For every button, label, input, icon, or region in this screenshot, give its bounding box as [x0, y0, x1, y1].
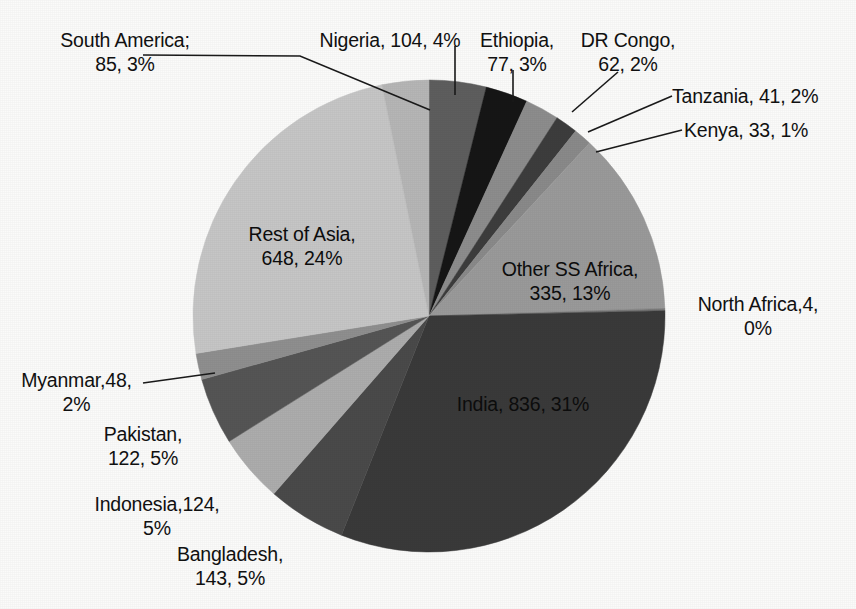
label-other-ss-africa: Other SS Africa, 335, 13%	[470, 257, 670, 305]
pie-chart: South America; 85, 3% Nigeria, 104, 4% E…	[0, 0, 856, 609]
label-nigeria: Nigeria, 104, 4%	[300, 28, 480, 52]
label-south-america: South America; 85, 3%	[10, 28, 240, 76]
label-rest-of-asia: Rest of Asia, 648, 24%	[212, 222, 392, 270]
label-india: India, 836, 31%	[428, 392, 618, 416]
label-bangladesh: Bangladesh, 143, 5%	[140, 542, 320, 590]
label-tanzania: Tanzania, 41, 2%	[672, 84, 856, 108]
label-north-africa: North Africa,4, 0%	[668, 292, 848, 340]
label-dr-congo: DR Congo, 62, 2%	[568, 28, 688, 76]
label-ethiopia: Ethiopia, 77, 3%	[462, 28, 572, 76]
label-myanmar: Myanmar,48, 2%	[4, 368, 149, 416]
leader-line-tanzania	[588, 96, 672, 132]
pie-slice-group	[193, 80, 665, 552]
label-pakistan: Pakistan, 122, 5%	[78, 422, 208, 470]
leader-line-dr-congo	[572, 72, 618, 112]
leader-line-kenya	[596, 130, 682, 152]
label-indonesia: Indonesia,124, 5%	[62, 492, 252, 540]
label-kenya: Kenya, 33, 1%	[684, 118, 856, 142]
